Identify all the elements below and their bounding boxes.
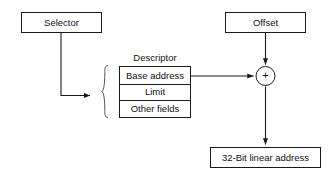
connector-selector-to-descriptor <box>61 33 90 96</box>
descriptor-row-label: Base address <box>126 70 184 81</box>
linear-address-node[interactable]: 32-Bit linear address <box>211 148 321 168</box>
selector-label: Selector <box>44 17 79 28</box>
adder-label: + <box>262 69 268 81</box>
adder-node[interactable]: + <box>256 67 275 86</box>
offset-node[interactable]: Offset <box>226 13 306 33</box>
descriptor-row-label: Limit <box>145 86 165 97</box>
descriptor-row-limit[interactable]: Limit <box>120 85 191 101</box>
linear-address-label: 32-Bit linear address <box>222 152 309 163</box>
descriptor-brace <box>102 66 108 118</box>
offset-label: Offset <box>253 17 279 28</box>
segmentation-diagram: Selector Offset Descriptor Base address … <box>0 0 333 180</box>
descriptor-table: Base address Limit Other fields <box>120 67 191 118</box>
selector-node[interactable]: Selector <box>22 13 102 33</box>
diagram-canvas: Selector Offset Descriptor Base address … <box>0 0 333 180</box>
descriptor-row-label: Other fields <box>131 103 180 114</box>
descriptor-caption: Descriptor <box>133 52 176 63</box>
descriptor-row-base-address[interactable]: Base address <box>120 67 191 85</box>
descriptor-row-other-fields[interactable]: Other fields <box>120 101 191 118</box>
